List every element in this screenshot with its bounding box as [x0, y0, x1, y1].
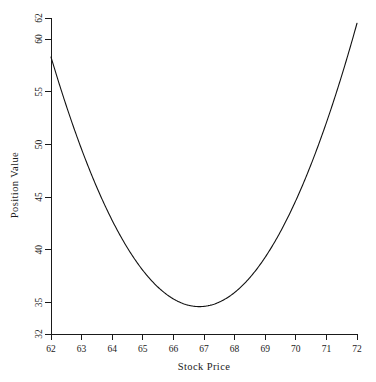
y-tick-label: 32	[34, 329, 44, 339]
x-tick-label: 64	[107, 344, 117, 354]
y-tick-label: 40	[34, 245, 44, 255]
y-tick-label: 50	[34, 139, 44, 149]
y-tick-label: 45	[34, 192, 44, 202]
x-tick-label: 68	[230, 344, 240, 354]
x-tick-label: 63	[77, 344, 87, 354]
x-tick-label: 69	[260, 344, 270, 354]
chart-background	[0, 0, 376, 382]
x-tick-label: 71	[322, 344, 332, 354]
x-tick-label: 62	[46, 344, 56, 354]
y-tick-label: 62	[34, 13, 44, 23]
x-tick-label: 65	[138, 344, 148, 354]
y-axis-title: Position Value	[9, 152, 20, 218]
x-tick-label: 70	[291, 344, 301, 354]
position-value-chart: 3235404550556062 6263646566676869707172 …	[0, 0, 376, 382]
x-tick-label: 66	[169, 344, 179, 354]
x-tick-label: 67	[199, 344, 209, 354]
y-tick-label: 35	[34, 297, 44, 307]
x-axis-title: Stock Price	[178, 361, 231, 372]
y-tick-label: 55	[34, 87, 44, 97]
x-tick-label: 72	[352, 344, 362, 354]
y-tick-label: 60	[34, 34, 44, 44]
chart-container: 3235404550556062 6263646566676869707172 …	[0, 0, 376, 382]
